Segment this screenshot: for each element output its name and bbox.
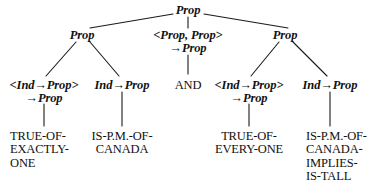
leaf-is-pm-of-canada-line2: CANADA bbox=[92, 143, 153, 156]
leaf-is-pm-of-canada-implies-is-tall-line3: IMPLIES- bbox=[306, 157, 367, 170]
node-left-prop-label: Prop bbox=[70, 29, 95, 42]
leaf-is-pm-of-canada-line1: IS-P.M.-OF- bbox=[92, 130, 153, 143]
leaf-true-of-exactly-one-line2: EXACTLY- bbox=[10, 143, 69, 156]
node-type-is-pm-of-canada: Ind→Prop bbox=[95, 79, 150, 92]
tree-edge-right-prop-to-type4 bbox=[251, 42, 279, 76]
leaf-true-of-exactly-one: TRUE-OF- EXACTLY- ONE bbox=[10, 130, 69, 170]
node-type-is-pm-of-canada-implies-is-tall: Ind→Prop bbox=[303, 79, 358, 92]
node-mid-conjunction-type-line2: →Prop bbox=[153, 42, 222, 55]
leaf-is-pm-of-canada-implies-is-tall-line2: CANADA- bbox=[306, 143, 367, 156]
node-right-prop-label: Prop bbox=[273, 29, 298, 42]
node-constant-and-label: AND bbox=[175, 79, 202, 92]
node-type-true-of-exactly-one-line2: →Prop bbox=[10, 92, 79, 105]
node-type-true-of-exactly-one: <Ind→Prop> →Prop bbox=[10, 79, 79, 106]
node-type-true-of-every-one-line2: →Prop bbox=[215, 92, 284, 105]
leaf-is-pm-of-canada: IS-P.M.-OF- CANADA bbox=[92, 130, 153, 157]
node-type-true-of-every-one: <Ind→Prop> →Prop bbox=[215, 79, 284, 106]
leaf-is-pm-of-canada-implies-is-tall-line4: IS-TALL bbox=[306, 170, 367, 183]
tree-edge-root-to-right-prop bbox=[204, 14, 288, 28]
parse-tree-diagram: Prop Prop <Prop, Prop> →Prop Prop <Ind→P… bbox=[0, 0, 375, 196]
node-type-is-pm-of-canada-line1: Ind→Prop bbox=[95, 79, 150, 92]
node-right-prop: Prop bbox=[273, 29, 298, 42]
node-left-prop: Prop bbox=[70, 29, 95, 42]
node-type-true-of-every-one-line1: <Ind→Prop> bbox=[215, 79, 284, 92]
tree-edge-left-prop-to-type1 bbox=[46, 42, 76, 76]
leaf-is-pm-of-canada-implies-is-tall: IS-P.M.-OF- CANADA- IMPLIES- IS-TALL bbox=[306, 130, 367, 183]
leaf-is-pm-of-canada-implies-is-tall-line1: IS-P.M.-OF- bbox=[306, 130, 367, 143]
tree-edge-right-prop-to-type5 bbox=[293, 42, 327, 76]
leaf-true-of-exactly-one-line3: ONE bbox=[10, 157, 69, 170]
tree-edge-root-to-left-prop bbox=[90, 14, 173, 28]
leaf-true-of-every-one: TRUE-OF- EVERY-ONE bbox=[215, 130, 283, 157]
leaf-true-of-exactly-one-line1: TRUE-OF- bbox=[10, 130, 69, 143]
node-root-prop-label: Prop bbox=[176, 4, 201, 17]
node-type-true-of-exactly-one-line1: <Ind→Prop> bbox=[10, 79, 79, 92]
leaf-true-of-every-one-line1: TRUE-OF- bbox=[215, 130, 283, 143]
node-mid-conjunction-type: <Prop, Prop> →Prop bbox=[153, 29, 222, 56]
leaf-true-of-every-one-line2: EVERY-ONE bbox=[215, 143, 283, 156]
node-mid-conjunction-type-line1: <Prop, Prop> bbox=[153, 29, 222, 42]
tree-edge-left-prop-to-type2 bbox=[90, 42, 119, 76]
node-root-prop: Prop bbox=[176, 4, 201, 17]
node-constant-and: AND bbox=[175, 79, 202, 92]
node-type-is-pm-of-canada-implies-is-tall-line1: Ind→Prop bbox=[303, 79, 358, 92]
